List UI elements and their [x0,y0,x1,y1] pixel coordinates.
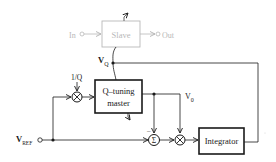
vref-to-multiplier-wire [53,97,71,140]
artifact-dot [265,133,266,134]
out-label: Out [162,31,175,40]
minus-sign: – [146,127,151,135]
master-label-line2: master [107,98,130,108]
summer-symbol: Σ [152,136,156,145]
in-label: In [69,31,76,40]
vref-terminal [38,138,42,142]
slave-label: Slave [112,30,131,40]
slave-block-group: In Slave Out [69,13,175,47]
vq-label: VQ [98,55,109,67]
out-terminal [156,32,160,36]
inv-q-label: 1/Q [71,73,83,82]
q-tuning-master-block [95,80,142,113]
v0-label: V0 [185,92,194,103]
integrator-label: Integrator [205,136,239,146]
in-terminal [80,32,84,36]
master-label-line1: Q–tuning [102,86,135,96]
slave-tune-arrow [124,13,128,21]
vref-label: VREF [16,134,32,146]
q-tuning-block-diagram: In Slave Out VQ 1/Q Q–tuning master V0 V… [0,0,276,162]
master-tune-arrow [128,113,130,120]
